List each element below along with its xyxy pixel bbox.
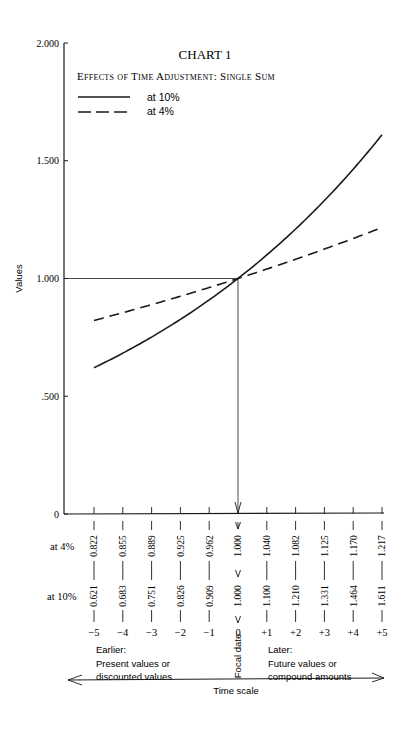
value-4-percent: 0.855 (118, 535, 128, 557)
row-label-4-percent: at 4% (50, 541, 74, 552)
value-4-percent: 1.000 (233, 535, 243, 557)
x-axis-label: Time scale (213, 685, 259, 696)
value-10-percent: 1.210 (291, 585, 301, 607)
value-4-percent: 0.925 (176, 535, 186, 557)
x-tick-label: +1 (261, 627, 272, 638)
x-tick-label: −2 (175, 627, 186, 638)
y-tick-label: 2.000 (37, 38, 60, 49)
y-tick-label: 1.500 (37, 155, 60, 166)
value-4-percent: 1.125 (320, 535, 330, 557)
later-note: Later: (268, 644, 292, 655)
arrow-down-icon (236, 570, 241, 577)
value-10-percent: 1.331 (320, 585, 330, 607)
legend-label-4: at 4% (147, 105, 174, 117)
earlier-note: discounted values (96, 671, 172, 682)
y-axis-label: Values (13, 264, 24, 293)
y-tick-label: 0 (54, 509, 59, 520)
legend-label-10: at 10% (147, 91, 180, 103)
value-10-percent: 1.611 (377, 585, 387, 606)
x-tick-label: −4 (117, 627, 129, 638)
value-10-percent: 0.683 (118, 585, 128, 607)
x-tick-label: +5 (376, 627, 387, 638)
x-tick-label: −1 (204, 627, 215, 638)
chart-svg: 0.5001.0001.5002.000ValuesCHART 1Effects… (0, 0, 408, 729)
earlier-note: Present values or (96, 658, 170, 669)
value-10-percent: 0.621 (89, 585, 99, 607)
y-tick-label: 1.000 (37, 273, 60, 284)
later-note: Future values or (268, 658, 337, 669)
value-10-percent: 1.000 (233, 585, 243, 607)
chart-title: CHART 1 (179, 47, 232, 62)
later-note: compound amounts (268, 671, 352, 682)
value-10-percent: 0.909 (205, 585, 215, 607)
row-label-10-percent: at 10% (47, 591, 77, 602)
x-axis (64, 513, 384, 514)
x-tick-label: +2 (290, 627, 301, 638)
value-4-percent: 1.040 (262, 535, 272, 557)
focal-date-label: Focal date (232, 634, 243, 678)
arrow-down-icon (236, 616, 241, 623)
earlier-note: Earlier: (96, 644, 126, 655)
x-tick-label: −3 (146, 627, 157, 638)
value-4-percent: 0.889 (147, 535, 157, 557)
value-4-percent: 1.217 (377, 535, 387, 557)
value-10-percent: 1.100 (262, 585, 272, 607)
arrow-right-icon (372, 673, 384, 682)
value-4-percent: 0.962 (205, 535, 215, 557)
x-tick-label: −5 (88, 627, 99, 638)
value-10-percent: 0.826 (176, 585, 186, 607)
y-tick-label: .500 (42, 391, 60, 402)
x-tick-label: +3 (319, 627, 330, 638)
value-10-percent: 0.751 (147, 585, 157, 607)
value-4-percent: 1.082 (291, 535, 301, 557)
x-tick-label: +4 (348, 627, 360, 638)
value-4-percent: 0.822 (89, 535, 99, 557)
value-4-percent: 1.170 (349, 535, 359, 557)
value-10-percent: 1.464 (349, 585, 359, 607)
chart-subtitle: Effects of Time Adjustment: Single Sum (77, 70, 275, 82)
